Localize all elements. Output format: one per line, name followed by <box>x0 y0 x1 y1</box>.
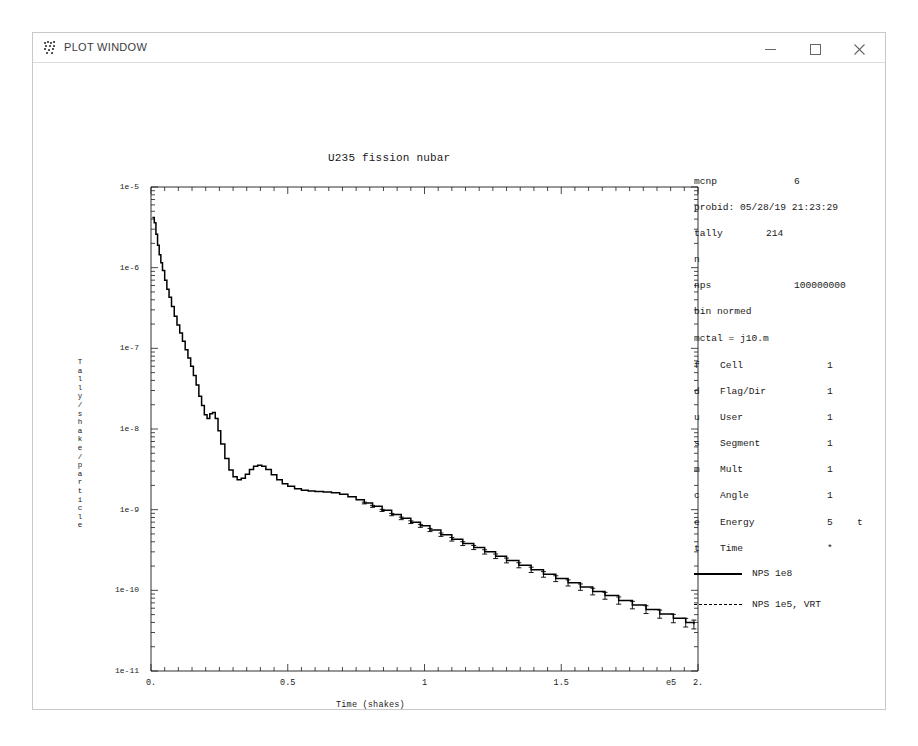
bin-count: 1 <box>827 386 833 397</box>
bin-code: u <box>694 412 700 423</box>
bin-name: Cell <box>720 360 743 371</box>
bin-name: Mult <box>720 464 743 475</box>
info-key: nps <box>694 280 711 291</box>
minimize-button[interactable] <box>749 33 793 62</box>
x-tick-label: 1.5 <box>541 678 581 688</box>
info-panel: mcnp6probid: 05/28/19 21:23:29tally214nn… <box>694 176 884 359</box>
bin-name: Angle <box>720 490 749 501</box>
info-row: bin normed <box>694 306 884 332</box>
legend: NPS 1e8NPS 1e5, VRT <box>694 568 885 630</box>
bin-extra: t <box>857 517 863 528</box>
legend-item: NPS 1e8 <box>694 568 885 599</box>
legend-label: NPS 1e5, VRT <box>752 599 821 610</box>
title-bar: PLOT WINDOW <box>33 33 885 63</box>
y-tick-label: 1e-5 <box>97 182 139 191</box>
table-row: dFlag/Dir1 <box>694 386 884 412</box>
bin-count: * <box>827 543 833 554</box>
x-tick-label: 0. <box>131 678 171 688</box>
window-title: PLOT WINDOW <box>64 41 147 53</box>
legend-label: NPS 1e8 <box>752 568 792 579</box>
info-row: tally214 <box>694 228 884 254</box>
bin-code: f <box>694 360 700 371</box>
info-row: mcnp6 <box>694 176 884 202</box>
axes <box>151 187 698 671</box>
bin-count: 1 <box>827 464 833 475</box>
bin-count: 5 <box>827 517 833 528</box>
x-tick-label: 2. <box>678 678 718 688</box>
info-key: probid: 05/28/19 21:23:29 <box>694 202 838 213</box>
info-value: 6 <box>794 176 800 187</box>
info-key: n <box>694 254 700 265</box>
bin-count: 1 <box>827 360 833 371</box>
legend-line-swatch <box>694 573 742 575</box>
plot-window: PLOT WINDOW U235 fission nubar Tally/sha… <box>32 32 886 710</box>
bin-count: 1 <box>827 438 833 449</box>
bin-code: e <box>694 517 700 528</box>
info-row: n <box>694 254 884 280</box>
table-row: uUser1 <box>694 412 884 438</box>
info-key: mctal = j10.m <box>694 333 769 344</box>
y-tick-label: 1e-7 <box>97 343 139 352</box>
bin-name: Energy <box>720 517 755 528</box>
bin-code: t <box>694 543 700 554</box>
mcnp-plot-icon <box>43 40 58 55</box>
bin-name: Flag/Dir <box>720 386 766 397</box>
info-key: tally <box>694 228 723 239</box>
bin-table: fCell1dFlag/Dir1uUser1sSegment1mMult1cAn… <box>694 360 884 569</box>
info-row: nps100000000 <box>694 280 884 306</box>
bin-name: Time <box>720 543 743 554</box>
legend-item: NPS 1e5, VRT <box>694 599 885 630</box>
y-tick-label: 1e-6 <box>97 263 139 272</box>
y-tick-label: 1e-8 <box>97 424 139 433</box>
table-row: sSegment1 <box>694 438 884 464</box>
bin-name: Segment <box>720 438 760 449</box>
legend-line-swatch <box>694 604 742 605</box>
table-row: mMult1 <box>694 464 884 490</box>
y-tick-label: 1e-10 <box>97 585 139 594</box>
plot-canvas: U235 fission nubar Tally/shake/particle … <box>33 63 885 710</box>
table-row: cAngle1 <box>694 490 884 516</box>
table-row: tTime* <box>694 543 884 569</box>
bin-code: d <box>694 386 700 397</box>
x-tick-label: 0.5 <box>268 678 308 688</box>
info-key: bin normed <box>694 306 752 317</box>
table-row: eEnergy5t <box>694 517 884 543</box>
bin-code: m <box>694 464 700 475</box>
x-tick-label: 1 <box>405 678 445 688</box>
info-value: 214 <box>766 228 783 239</box>
bin-name: User <box>720 412 743 423</box>
y-tick-label: 1e-11 <box>97 666 139 675</box>
table-row: fCell1 <box>694 360 884 386</box>
screen: PLOT WINDOW U235 fission nubar Tally/sha… <box>0 0 918 746</box>
bin-code: s <box>694 438 700 449</box>
info-row: probid: 05/28/19 21:23:29 <box>694 202 884 228</box>
bin-code: c <box>694 490 700 501</box>
close-button[interactable] <box>838 33 882 62</box>
maximize-button[interactable] <box>794 33 838 62</box>
info-value: 100000000 <box>794 280 846 291</box>
info-key: mcnp <box>694 176 717 187</box>
y-tick-label: 1e-9 <box>97 505 139 514</box>
axis-ticks <box>151 187 698 671</box>
info-row: mctal = j10.m <box>694 333 884 359</box>
bin-count: 1 <box>827 490 833 501</box>
data-series <box>152 217 696 629</box>
bin-count: 1 <box>827 412 833 423</box>
